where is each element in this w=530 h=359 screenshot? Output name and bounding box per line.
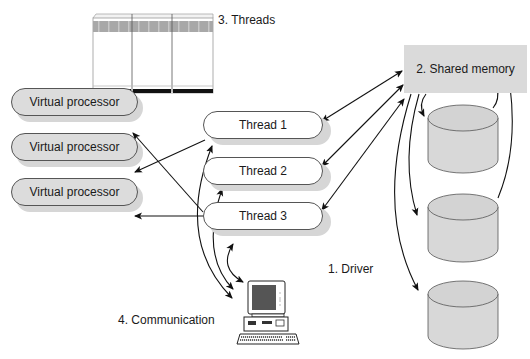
virtual-processor-2: Virtual processor <box>11 133 138 161</box>
thread-memory-arrows <box>322 71 404 210</box>
thread-2: Thread 2 <box>203 157 323 185</box>
thread-label: Thread 1 <box>239 118 287 132</box>
thread-vp-arrows <box>133 133 205 216</box>
virtual-processor-label: Virtual processor <box>30 140 120 154</box>
thread-1: Thread 1 <box>203 111 323 139</box>
virtual-processor-3: Virtual processor <box>11 178 138 206</box>
thread-label: Thread 2 <box>239 164 287 178</box>
driver-label: 1. Driver <box>328 262 373 276</box>
communication-label: 4. Communication <box>118 313 215 327</box>
server-rack-icon <box>93 14 213 93</box>
threads-label: 3. Threads <box>218 13 275 27</box>
disk-icon-1 <box>428 105 498 173</box>
thread-label: Thread 3 <box>239 209 287 223</box>
disk-icon-3 <box>428 281 498 349</box>
virtual-processor-label: Virtual processor <box>30 95 120 109</box>
computer-icon <box>237 281 299 344</box>
shared-memory-label: 2. Shared memory <box>416 62 515 76</box>
disk-icon-2 <box>428 194 498 262</box>
shared-memory-box: 2. Shared memory <box>404 45 527 93</box>
thread-3: Thread 3 <box>203 202 323 230</box>
virtual-processor-1: Virtual processor <box>11 88 138 116</box>
virtual-processor-label: Virtual processor <box>30 185 120 199</box>
